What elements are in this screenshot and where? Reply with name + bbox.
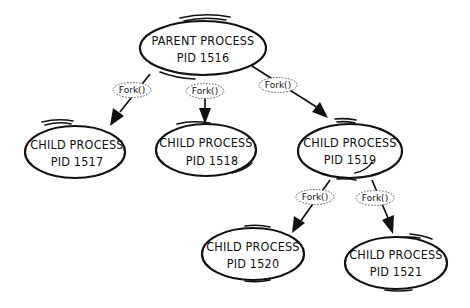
node-child-1519: CHILD PROCESS PID 1519 [298, 119, 402, 180]
svg-text:PID 1519: PID 1519 [324, 152, 377, 167]
svg-text:PID 1517: PID 1517 [51, 154, 104, 169]
node-parent-process: PARENT PROCESS PID 1516 [140, 15, 266, 79]
svg-text:Fork(): Fork() [302, 192, 328, 202]
edge-parent-to-1519 [252, 66, 328, 118]
svg-text:Fork(): Fork() [192, 86, 218, 96]
fork-label-1521: Fork() [356, 191, 394, 206]
svg-text:PID 1516: PID 1516 [177, 50, 230, 65]
svg-text:Fork(): Fork() [265, 80, 291, 90]
svg-text:CHILD PROCESS: CHILD PROCESS [349, 247, 442, 262]
node-child-1521: CHILD PROCESS PID 1521 [345, 234, 447, 291]
fork-label-1517: Fork() [113, 83, 151, 98]
svg-text:CHILD PROCESS: CHILD PROCESS [159, 135, 252, 150]
fork-label-1518: Fork() [186, 84, 224, 99]
svg-text:CHILD PROCESS: CHILD PROCESS [30, 137, 123, 152]
edge-parent-to-1517 [110, 74, 150, 126]
svg-text:CHILD PROCESS: CHILD PROCESS [303, 135, 396, 150]
svg-text:PID 1520: PID 1520 [227, 256, 280, 271]
svg-text:PID 1518: PID 1518 [186, 153, 239, 168]
process-tree-diagram: Fork() Fork() Fork() Fork() Fork() PAREN… [0, 0, 470, 308]
edge-1519-to-1521 [372, 180, 394, 234]
node-child-1520: CHILD PROCESS PID 1520 [202, 225, 304, 282]
arrowhead-icon [382, 215, 394, 234]
fork-label-1519: Fork() [259, 78, 297, 93]
svg-text:Fork(): Fork() [362, 193, 388, 203]
svg-text:PARENT PROCESS: PARENT PROCESS [152, 33, 255, 48]
fork-label-1520: Fork() [296, 190, 334, 205]
edge-1519-to-1520 [292, 180, 330, 233]
node-child-1518: CHILD PROCESS PID 1518 [156, 122, 256, 176]
svg-text:PID 1521: PID 1521 [370, 264, 423, 279]
node-child-1517: CHILD PROCESS PID 1517 [25, 120, 125, 178]
arrowhead-icon [312, 102, 328, 118]
svg-text:CHILD PROCESS: CHILD PROCESS [206, 239, 299, 254]
svg-text:Fork(): Fork() [119, 85, 145, 95]
